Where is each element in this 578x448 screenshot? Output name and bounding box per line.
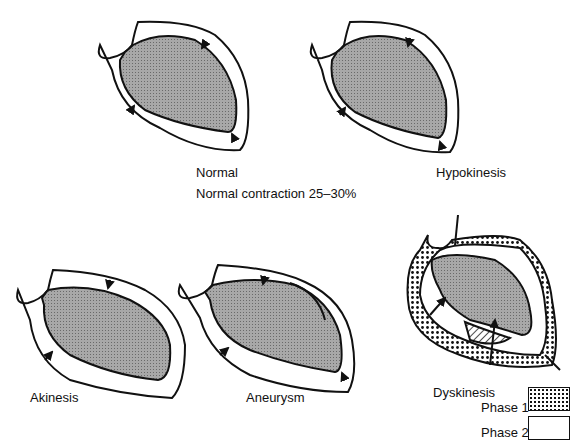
- legend-phase1-swatch: [528, 387, 570, 411]
- label-normal: Normal: [196, 165, 238, 180]
- label-akinesis: Akinesis: [30, 390, 78, 405]
- diagram-canvas: [0, 0, 578, 448]
- label-hypokinesis: Hypokinesis: [436, 165, 506, 180]
- legend-phase2-swatch: [528, 416, 570, 440]
- panel-dyskinesis: [408, 215, 561, 370]
- panel-normal: [99, 22, 249, 150]
- panel-akinesis: [17, 270, 185, 398]
- label-dyskinesis: Dyskinesis: [433, 385, 495, 400]
- panel-hypokinesis: [311, 22, 459, 153]
- label-aneurysm: Aneurysm: [246, 390, 305, 405]
- legend-phase1-label: Phase 1: [481, 400, 529, 415]
- panel-aneurysm: [179, 265, 355, 392]
- label-normal-contraction: Normal contraction 25–30%: [196, 186, 356, 201]
- legend-phase2-label: Phase 2: [481, 425, 529, 440]
